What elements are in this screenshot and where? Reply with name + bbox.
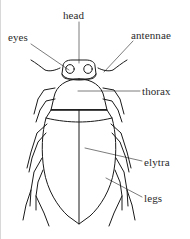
label-eyes: eyes xyxy=(8,31,28,43)
leader-line-antennae xyxy=(104,41,133,72)
leader-line-elytra xyxy=(85,148,142,161)
label-legs: legs xyxy=(144,192,162,204)
label-antennae: antennae xyxy=(131,29,171,41)
thorax-outline xyxy=(51,79,107,110)
antenna-right xyxy=(98,60,127,71)
label-thorax: thorax xyxy=(142,85,171,97)
label-head: head xyxy=(63,9,84,21)
antenna-left xyxy=(31,60,60,71)
eye-right xyxy=(84,65,92,74)
beetle-anatomy-figure: head eyes antennae thorax elytra legs xyxy=(0,0,190,239)
label-elytra: elytra xyxy=(144,156,170,168)
tarsus-left-a xyxy=(36,196,49,226)
tarsus-right-a xyxy=(109,196,122,226)
